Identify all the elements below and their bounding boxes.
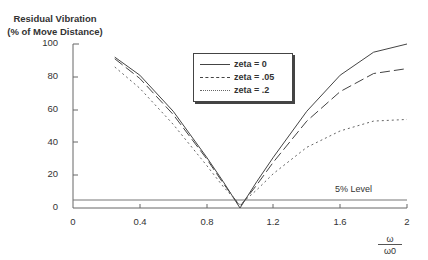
dotted-line-swatch-icon <box>200 90 230 91</box>
dashed-line-swatch-icon <box>200 77 230 78</box>
legend-item-zeta-0.05: zeta = .05 <box>200 71 288 83</box>
plot-area <box>0 0 428 260</box>
legend-item-zeta-0.2: zeta = .2 <box>200 84 288 96</box>
legend: zeta = 0 zeta = .05 zeta = .2 <box>193 53 293 102</box>
five-percent-level-label: 5% Level <box>335 184 372 194</box>
legend-item-zeta-0: zeta = 0 <box>200 58 288 70</box>
solid-line-swatch-icon <box>200 64 230 65</box>
